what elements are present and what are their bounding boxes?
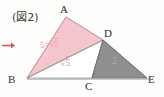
figure-caption: (図2)	[12, 8, 39, 24]
area-label-bdc-radicand: 5	[66, 56, 71, 68]
area-label-abd-radicand: 5	[54, 38, 59, 49]
vertex-label-b: B	[8, 73, 15, 85]
radical-sign-bdc: √	[60, 57, 66, 68]
area-label-triangle-bdc: √5	[60, 57, 71, 68]
vertex-label-a: A	[60, 3, 68, 15]
vertex-label-e: E	[148, 73, 155, 85]
area-label-triangle-abd: 5=√5	[40, 39, 60, 50]
area-label-triangle-dce: 2	[112, 55, 117, 66]
vertex-label-d: D	[104, 27, 112, 39]
red-arrow-icon	[2, 43, 15, 49]
vertex-label-c: C	[85, 80, 92, 92]
figure-container: (図2) A B C D E 5=√5 √5 2	[0, 0, 164, 97]
